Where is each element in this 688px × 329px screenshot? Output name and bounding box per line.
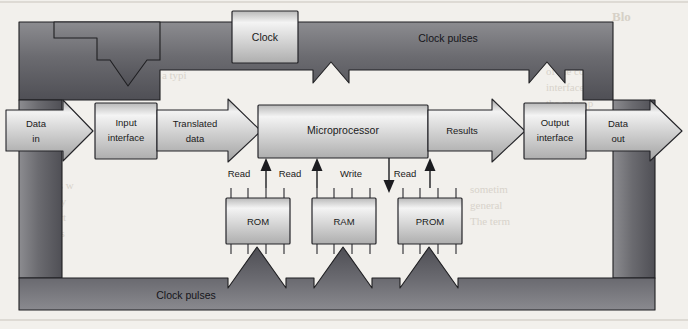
input-interface-block[interactable]: Input interface	[95, 103, 157, 159]
clock-block-label: Clock	[252, 31, 279, 43]
data-in-label-line1: Data	[26, 118, 47, 129]
data-out-label-line2: out	[611, 133, 625, 144]
results-arrow: Results	[428, 99, 525, 162]
read-signal-2-label: Read	[279, 168, 302, 179]
clock-pulses-top-label: Clock pulses	[418, 32, 478, 44]
bleed-heading: Blo	[612, 9, 631, 24]
input-interface-label-line2: interface	[108, 132, 144, 143]
ram-pins-top	[317, 188, 370, 199]
rom-chip[interactable]: ROM	[226, 188, 290, 254]
prom-chip[interactable]: PROM	[398, 188, 462, 254]
read-signal-1-label: Read	[228, 168, 251, 179]
output-interface-label-line1: Output	[541, 117, 570, 128]
prom-label: PROM	[416, 216, 445, 227]
microprocessor-block-diagram: Blo The block for exampl of the com inte…	[0, 0, 688, 329]
clock-pulses-bottom-label: Clock pulses	[156, 289, 216, 301]
bleed-line: general	[470, 199, 502, 211]
write-signal: Write	[340, 158, 395, 193]
translated-data-arrow: Translated data	[157, 99, 261, 162]
write-signal-label: Write	[340, 168, 362, 179]
data-out-label-line1: Data	[608, 118, 629, 129]
output-interface-block[interactable]: Output interface	[524, 103, 586, 159]
read-signal-2: Read	[279, 158, 323, 188]
translated-data-arrow-shape	[157, 99, 261, 162]
clock-block[interactable]: Clock	[232, 11, 298, 63]
read-signal-2-arrowhead-up-icon	[312, 158, 323, 171]
microprocessor-block[interactable]: Microprocessor	[258, 105, 428, 158]
input-interface-label-line1: Input	[115, 117, 136, 128]
output-interface-label-line2: interface	[537, 132, 573, 143]
bleed-line: The term	[470, 215, 510, 227]
read-signal-3-arrowhead-up-icon	[425, 158, 436, 171]
read-signal-3-label: Read	[394, 168, 417, 179]
results-label: Results	[446, 125, 478, 136]
figure-page: Blo The block for exampl of the com inte…	[0, 0, 688, 329]
clock-bus-bottom-band	[19, 247, 655, 310]
microprocessor-label: Microprocessor	[307, 124, 379, 136]
rom-label: ROM	[247, 216, 269, 227]
write-signal-arrowhead-down-icon	[384, 180, 395, 193]
prom-pins-top	[403, 188, 456, 199]
read-signal-3: Read	[394, 158, 436, 188]
ram-chip[interactable]: RAM	[312, 188, 376, 254]
translated-data-label-line2: data	[186, 133, 205, 144]
bleed-line: sometim	[470, 183, 508, 195]
read-signal-1: Read	[228, 158, 272, 188]
ram-label: RAM	[333, 216, 354, 227]
translated-data-label-line1: Translated	[173, 118, 218, 129]
data-in-label-line2: in	[32, 133, 39, 144]
read-signal-1-arrowhead-up-icon	[261, 158, 272, 171]
rom-pins-top	[231, 188, 284, 199]
